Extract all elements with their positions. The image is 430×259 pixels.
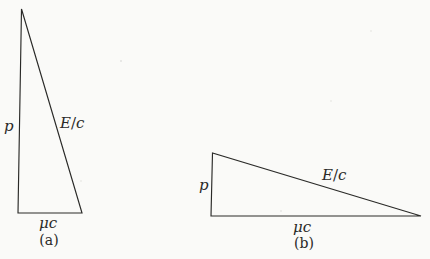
triangle-a-energy-denominator: c xyxy=(76,114,84,132)
triangle-b-energy-numerator: E xyxy=(322,166,333,184)
paper-speckle xyxy=(120,60,122,62)
triangle-b-energy-label: E/c xyxy=(322,168,346,183)
triangle-b-base-label: μc xyxy=(293,220,311,235)
triangle-a-momentum-label: p xyxy=(4,119,14,134)
triangle-a-base-label: μc xyxy=(39,216,57,231)
triangle-a-caption: (a) xyxy=(39,233,58,247)
triangle-a-shape xyxy=(18,9,82,213)
triangle-a-energy-label: E/c xyxy=(60,116,84,131)
triangle-b-momentum-label: p xyxy=(199,178,209,193)
triangle-b-shape xyxy=(211,153,421,216)
triangle-b-caption: (b) xyxy=(294,236,314,250)
triangle-a-energy-numerator: E xyxy=(60,114,71,132)
energy-momentum-triangles-figure: p E/c μc (a) p E/c μc (b) xyxy=(0,0,430,259)
triangle-b-energy-denominator: c xyxy=(338,166,346,184)
